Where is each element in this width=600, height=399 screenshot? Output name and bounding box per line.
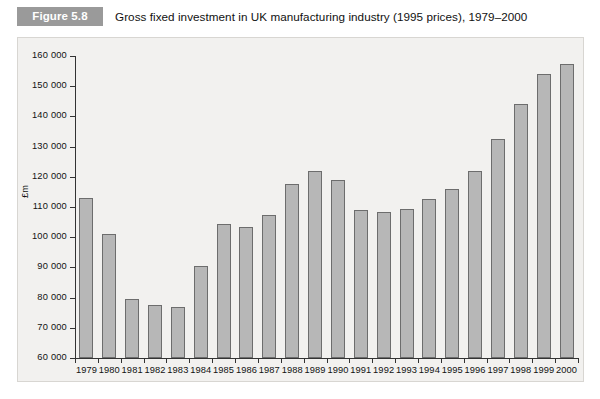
x-axis-tick — [281, 358, 282, 363]
bar — [125, 299, 139, 358]
bar — [445, 189, 459, 358]
bar — [171, 307, 185, 358]
x-axis-tick-label: 1980 — [98, 365, 121, 375]
x-axis-tick — [189, 358, 190, 363]
x-axis-tick — [349, 358, 350, 363]
y-axis-tick — [70, 86, 75, 87]
x-axis-tick-label: 1983 — [166, 365, 189, 375]
x-axis-tick-label: 1993 — [395, 365, 418, 375]
x-axis-tick-label: 1981 — [121, 365, 144, 375]
bar — [308, 171, 322, 358]
x-axis-tick — [418, 358, 419, 363]
y-axis-tick — [70, 177, 75, 178]
x-axis-tick-label: 1997 — [487, 365, 510, 375]
x-axis-tick-label: 1989 — [304, 365, 327, 375]
bar — [560, 64, 574, 358]
bar — [102, 234, 116, 358]
figure-number-badge: Figure 5.8 — [17, 7, 103, 26]
y-axis-tick — [70, 267, 75, 268]
chart-panel: £m 160 000150 000140 000130 000120 00011… — [17, 37, 584, 382]
x-axis-tick — [144, 358, 145, 363]
x-axis-tick — [464, 358, 465, 363]
x-axis-tick — [532, 358, 533, 363]
x-axis-tick — [578, 358, 579, 363]
x-axis-tick-label: 1999 — [532, 365, 555, 375]
y-axis-tick-label: 150 000 — [32, 80, 67, 90]
x-axis-tick — [327, 358, 328, 363]
bar — [239, 227, 253, 358]
bar — [331, 180, 345, 358]
bar — [262, 215, 276, 358]
x-axis-tick-label: 1990 — [327, 365, 350, 375]
x-axis-tick — [235, 358, 236, 363]
bar-chart-plot: £m 160 000150 000140 000130 000120 00011… — [18, 38, 585, 383]
x-axis-tick-label: 1987 — [258, 365, 281, 375]
x-axis-tick — [509, 358, 510, 363]
x-axis-tick-label: 2000 — [555, 365, 578, 375]
y-axis-tick — [70, 147, 75, 148]
x-axis-tick — [166, 358, 167, 363]
x-axis-tick — [212, 358, 213, 363]
x-axis-tick-label: 1992 — [372, 365, 395, 375]
figure-caption: Gross fixed investment in UK manufacturi… — [115, 10, 527, 23]
x-axis-tick — [98, 358, 99, 363]
bar — [217, 224, 231, 358]
bar — [377, 212, 391, 358]
bar — [468, 171, 482, 358]
x-axis-tick-label: 1986 — [235, 365, 258, 375]
bar — [400, 209, 414, 358]
bar — [354, 210, 368, 358]
x-axis-tick-label: 1985 — [212, 365, 235, 375]
y-axis-tick — [70, 56, 75, 57]
x-axis-tick-label: 1996 — [464, 365, 487, 375]
x-axis-tick — [121, 358, 122, 363]
x-axis-tick — [258, 358, 259, 363]
bar — [79, 198, 93, 358]
x-axis-tick — [372, 358, 373, 363]
x-axis-tick — [395, 358, 396, 363]
x-axis-tick-label: 1984 — [189, 365, 212, 375]
y-axis-tick-label: 160 000 — [32, 50, 67, 60]
bar — [422, 199, 436, 358]
y-axis-tick-label: 130 000 — [32, 141, 67, 151]
x-axis-tick-label: 1988 — [281, 365, 304, 375]
x-axis-tick — [304, 358, 305, 363]
x-axis-tick — [75, 358, 76, 363]
figure-header: Figure 5.8 Gross fixed investment in UK … — [0, 0, 600, 32]
bar — [537, 74, 551, 358]
y-axis-line — [75, 56, 76, 359]
x-axis-tick-label: 1995 — [441, 365, 464, 375]
bar — [491, 139, 505, 358]
y-axis-tick-label: 90 000 — [37, 261, 67, 271]
y-axis-tick-label: 70 000 — [37, 322, 67, 332]
y-axis-tick-label: 100 000 — [32, 231, 67, 241]
x-axis-tick-label: 1979 — [75, 365, 98, 375]
y-axis-tick — [70, 116, 75, 117]
x-axis-tick — [441, 358, 442, 363]
y-axis-tick — [70, 237, 75, 238]
bar — [194, 266, 208, 358]
y-axis-tick-label: 80 000 — [37, 292, 67, 302]
x-axis-tick-label: 1994 — [418, 365, 441, 375]
y-axis-tick — [70, 298, 75, 299]
y-axis-tick-label: 60 000 — [37, 352, 67, 362]
y-axis-tick — [70, 328, 75, 329]
bar — [285, 184, 299, 358]
figure-page: Figure 5.8 Gross fixed investment in UK … — [0, 0, 600, 399]
bar — [514, 104, 528, 358]
y-axis-tick-label: 120 000 — [32, 171, 67, 181]
bar — [148, 305, 162, 358]
x-axis-tick-label: 1998 — [509, 365, 532, 375]
x-axis-tick — [555, 358, 556, 363]
y-axis-tick-label: 110 000 — [33, 201, 67, 211]
x-axis-tick-label: 1991 — [349, 365, 372, 375]
x-axis-tick-label: 1982 — [144, 365, 167, 375]
y-axis-tick-label: 140 000 — [32, 110, 67, 120]
y-axis-tick — [70, 207, 75, 208]
x-axis-tick — [487, 358, 488, 363]
y-axis-title: £m — [20, 185, 30, 198]
